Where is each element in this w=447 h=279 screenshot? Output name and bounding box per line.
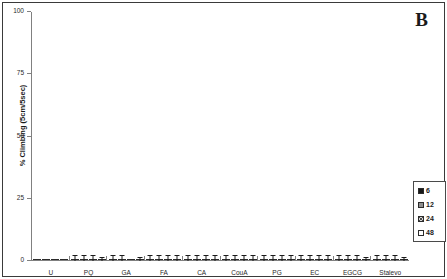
x-axis-label-CA: CA — [183, 269, 221, 276]
x-axis-label-EC: EC — [296, 269, 334, 276]
error-bar-cap — [73, 255, 78, 256]
bar-rect — [211, 259, 219, 260]
legend-item-48[interactable]: 48 — [418, 229, 442, 236]
bar-U-24[interactable] — [51, 259, 59, 260]
error-bar-cap — [204, 255, 209, 256]
y-axis-tick: 100 — [27, 11, 31, 12]
error-bar-cap — [326, 255, 331, 256]
bar-PQ-6[interactable] — [71, 259, 79, 260]
error-bar-cap — [392, 255, 397, 256]
error-bar-cap — [175, 255, 180, 256]
legend-label: 48 — [426, 229, 434, 236]
error-bar-cap — [232, 255, 237, 256]
bar-EC-12[interactable] — [306, 259, 314, 260]
legend-item-12[interactable]: 12 — [418, 201, 442, 208]
bar-FA-12[interactable] — [155, 259, 163, 260]
error-bar-cap — [91, 255, 96, 256]
error-bar-cap — [241, 255, 246, 256]
error-bar-cap — [100, 257, 105, 258]
bar-CouA-48[interactable] — [249, 259, 257, 260]
bar-rect — [287, 259, 295, 260]
error-bar-cap — [137, 257, 142, 258]
bar-EGCG-24[interactable] — [353, 259, 361, 260]
bar-EC-48[interactable] — [324, 259, 332, 260]
bar-EGCG-48[interactable] — [362, 259, 370, 260]
bar-CouA-6[interactable] — [222, 259, 230, 260]
bar-GA-48[interactable] — [136, 259, 144, 260]
bar-EGCG-12[interactable] — [344, 259, 352, 260]
bar-rect — [127, 259, 135, 260]
bar-PQ-24[interactable] — [89, 259, 97, 260]
error-bar-cap — [363, 257, 368, 258]
bar-U-12[interactable] — [42, 259, 50, 260]
bar-rect — [80, 259, 88, 260]
bar-CA-6[interactable] — [184, 259, 192, 260]
bar-CouA-12[interactable] — [231, 259, 239, 260]
bar-group: PG — [258, 12, 296, 260]
error-bar-cap — [166, 255, 171, 256]
bar-PG-12[interactable] — [269, 259, 277, 260]
bar-U-6[interactable] — [33, 259, 41, 260]
x-axis-label-EGCG: EGCG — [334, 269, 372, 276]
y-axis-tick: 25 — [27, 198, 31, 199]
legend-swatch-icon — [418, 202, 424, 208]
bar-Stalevo-48[interactable] — [400, 259, 408, 260]
bar-rect — [362, 259, 370, 260]
error-bar-cap — [299, 255, 304, 256]
bar-PQ-12[interactable] — [80, 259, 88, 260]
bar-PQ-48[interactable] — [98, 259, 106, 260]
figure-panel: B % Climbing (5cm/5sec) 0255075100 UPQGA… — [2, 2, 445, 277]
error-bar-cap — [250, 255, 255, 256]
bar-CouA-24[interactable] — [240, 259, 248, 260]
bar-Stalevo-12[interactable] — [382, 259, 390, 260]
bar-rect — [89, 259, 97, 260]
bar-EC-6[interactable] — [297, 259, 305, 260]
bar-GA-12[interactable] — [118, 259, 126, 260]
x-axis-label-PG: PG — [258, 269, 296, 276]
bar-CA-48[interactable] — [211, 259, 219, 260]
bar-FA-48[interactable] — [173, 259, 181, 260]
error-bar-cap — [148, 255, 153, 256]
bar-PG-48[interactable] — [287, 259, 295, 260]
error-bar-cap — [213, 255, 218, 256]
bar-group: GA — [107, 12, 145, 260]
bar-rect — [155, 259, 163, 260]
legend: 6122448 — [413, 181, 446, 242]
error-bar-cap — [308, 255, 313, 256]
error-bar-cap — [186, 255, 191, 256]
error-bar-cap — [119, 255, 124, 256]
error-bar-cap — [279, 255, 284, 256]
legend-item-24[interactable]: 24 — [418, 215, 442, 222]
bar-PG-24[interactable] — [278, 259, 286, 260]
bar-rect — [184, 259, 192, 260]
y-axis-tick: 0 — [27, 260, 31, 261]
bar-rect — [335, 259, 343, 260]
bar-U-48[interactable] — [60, 259, 68, 260]
bar-GA-24[interactable] — [127, 259, 135, 260]
bar-CA-12[interactable] — [193, 259, 201, 260]
bar-rect — [109, 259, 117, 260]
bar-GA-6[interactable] — [109, 259, 117, 260]
bar-rect — [324, 259, 332, 260]
bar-FA-24[interactable] — [164, 259, 172, 260]
bar-EGCG-6[interactable] — [335, 259, 343, 260]
y-axis-tick-label: 100 — [13, 7, 24, 14]
y-axis-tick-label: 25 — [17, 194, 24, 201]
bar-rect — [278, 259, 286, 260]
x-axis-label-PQ: PQ — [70, 269, 108, 276]
error-bar-cap — [383, 255, 388, 256]
error-bar-cap — [336, 255, 341, 256]
bar-rect — [51, 259, 59, 260]
bar-CA-24[interactable] — [202, 259, 210, 260]
bar-EC-24[interactable] — [315, 259, 323, 260]
bar-rect — [353, 259, 361, 260]
legend-item-6[interactable]: 6 — [418, 187, 442, 194]
bar-Stalevo-24[interactable] — [391, 259, 399, 260]
bar-rect — [260, 259, 268, 260]
bar-FA-6[interactable] — [146, 259, 154, 260]
bar-rect — [391, 259, 399, 260]
bar-rect — [98, 259, 106, 260]
bar-PG-6[interactable] — [260, 259, 268, 260]
bar-rect — [306, 259, 314, 260]
bar-Stalevo-6[interactable] — [373, 259, 381, 260]
